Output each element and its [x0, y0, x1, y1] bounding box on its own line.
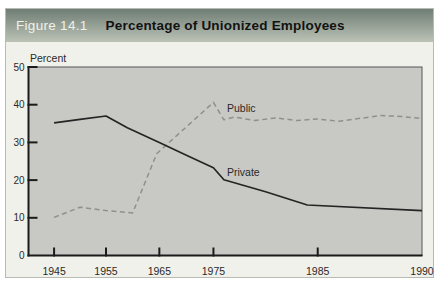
figure-header: Figure 14.1 Percentage of Unionized Empl… [6, 9, 433, 42]
figure-number: Figure 14.1 [16, 18, 88, 33]
figure-title: Percentage of Unionized Employees [106, 18, 345, 33]
figure-panel: Figure 14.1 Percentage of Unionized Empl… [0, 0, 440, 285]
figure-box: Figure 14.1 Percentage of Unionized Empl… [5, 8, 434, 278]
